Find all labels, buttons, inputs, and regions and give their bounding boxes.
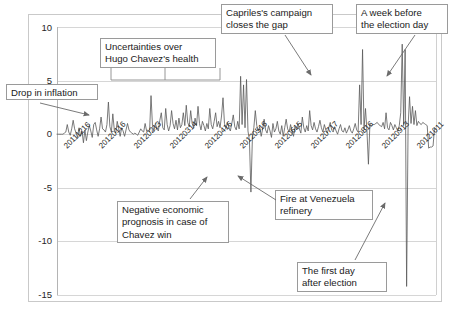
callout-uncertainties-chavez-health: Uncertainties over Hugo Chavez's health (100, 38, 216, 68)
y-tick-label: 0 (18, 128, 52, 139)
callout-first-day-after-election: The first day after election (297, 262, 387, 292)
gridline-neg15 (57, 295, 436, 296)
y-tick-label: -5 (18, 182, 52, 193)
callout-drop-in-inflation: Drop in inflation (6, 84, 98, 100)
callout-negative-economic-prognosis: Negative economic prognosis in case of C… (117, 201, 229, 243)
y-tick-label: 10 (18, 22, 52, 33)
callout-fire-venezuela-refinery: Fire at Venezuela refinery (275, 190, 373, 220)
y-tick-label: -10 (18, 235, 52, 246)
y-tick-label: -15 (18, 289, 52, 300)
callout-capriles-campaign: Capriles's campaign closes the gap (221, 4, 333, 34)
plot-right-edge (436, 27, 437, 295)
callout-week-before-election: A week before the election day (356, 4, 448, 34)
chart-container: 10 5 0 -5 -10 -15 2011121620120116201202… (0, 0, 454, 317)
